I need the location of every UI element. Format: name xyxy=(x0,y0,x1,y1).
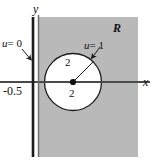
circle-center-point xyxy=(70,79,76,85)
center-offset-label: 2 xyxy=(69,88,75,99)
math-figure: y x -0.5 R u= 0 u= 1 2 2 xyxy=(0,0,157,167)
x-axis-label: x xyxy=(143,76,148,88)
u1-equation: = 1 xyxy=(90,39,104,51)
boundary-condition-u1: u= 1 xyxy=(84,40,104,51)
figure-canvas xyxy=(0,0,157,167)
u0-equation: = 0 xyxy=(8,37,22,49)
u0-arrow xyxy=(22,49,31,60)
x-tick-label-neg-half: -0.5 xyxy=(3,85,22,97)
radius-value-label: 2 xyxy=(65,57,71,68)
region-label-R: R xyxy=(113,22,121,34)
y-axis-label: y xyxy=(33,3,38,15)
shaded-region-R xyxy=(38,17,138,157)
boundary-condition-u0: u= 0 xyxy=(2,38,22,49)
